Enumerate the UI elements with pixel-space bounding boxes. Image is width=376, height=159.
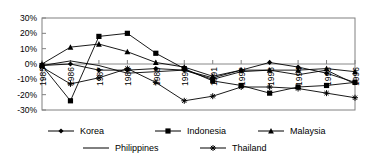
chart-legend: KoreaIndonesiaMalaysiaPhilippinesThailan… — [48, 126, 326, 153]
y-tick-label: 10% — [20, 44, 37, 54]
series-line — [42, 33, 355, 100]
line-chart: 30%20%10%0%-10%-20%-30%19851986198719881… — [0, 0, 376, 159]
marker-diamond — [58, 128, 63, 133]
series-indonesia — [39, 31, 357, 104]
y-tick-label: -30% — [17, 105, 37, 115]
legend-item-indonesia[interactable]: Indonesia — [155, 126, 226, 136]
legend-item-philippines[interactable]: Philippines — [83, 143, 159, 153]
series-line — [42, 62, 355, 82]
y-tick-label: 20% — [20, 28, 37, 38]
legend-item-thailand[interactable]: Thailand — [200, 143, 267, 153]
y-tick-label: -20% — [17, 90, 37, 100]
marker-square — [125, 31, 130, 36]
marker-square — [352, 80, 357, 85]
marker-square — [68, 98, 73, 103]
marker-triangle — [153, 59, 159, 65]
y-tick-label: 30% — [20, 13, 37, 23]
legend-item-korea[interactable]: Korea — [48, 126, 104, 136]
marker-square — [324, 83, 329, 88]
legend-label: Thailand — [232, 143, 267, 153]
chart-canvas: 30%20%10%0%-10%-20%-30%19851986198719881… — [0, 0, 376, 159]
legend-label: Korea — [80, 126, 104, 136]
series-line — [42, 44, 355, 76]
marker-square — [267, 91, 272, 96]
marker-square — [153, 51, 158, 56]
y-tick-label: -10% — [17, 74, 37, 84]
marker-square — [96, 34, 101, 39]
legend-label: Philippines — [115, 143, 159, 153]
legend-item-malaysia[interactable]: Malaysia — [258, 126, 326, 136]
marker-diamond — [68, 61, 73, 66]
legend-label: Indonesia — [187, 126, 226, 136]
legend-label: Malaysia — [290, 126, 326, 136]
y-tick-label: 0% — [25, 59, 38, 69]
marker-square — [165, 128, 170, 133]
